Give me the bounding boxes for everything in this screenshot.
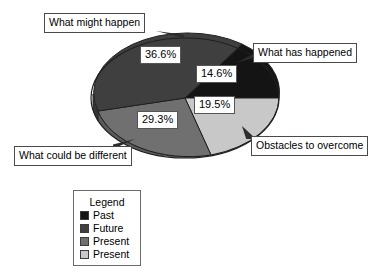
callout-what-could-be-different: What could be different [14, 146, 132, 166]
pie-value-label-future: 36.6% [140, 46, 181, 64]
chart-canvas: 36.6% 14.6% 19.5% 29.3% What might happe… [0, 0, 376, 274]
legend-swatch-future [80, 224, 89, 233]
legend-item-future: Future [80, 222, 140, 234]
legend-label-present-light: Present [93, 248, 129, 260]
legend-swatch-present-light [80, 250, 89, 259]
legend-label-past: Past [93, 209, 114, 221]
legend-item-present-medium: Present [80, 235, 140, 247]
legend-swatch-past [80, 211, 89, 220]
callout-what-has-happened: What has happened [253, 43, 357, 63]
legend-box: Legend Past Future Present Present [73, 190, 141, 266]
legend-item-past: Past [80, 209, 140, 221]
legend-swatch-present-medium [80, 237, 89, 246]
legend-label-future: Future [93, 222, 123, 234]
legend-label-present-medium: Present [93, 235, 129, 247]
callout-obstacles-to-overcome: Obstacles to overcome [251, 136, 368, 156]
pie-value-label-past: 14.6% [196, 65, 237, 83]
legend-item-present-light: Present [80, 248, 140, 260]
legend-title: Legend [74, 196, 140, 208]
pie-value-label-obstacles: 19.5% [194, 96, 235, 114]
callout-what-might-happen: What might happen [44, 13, 145, 33]
pie-value-label-present: 29.3% [137, 111, 178, 129]
